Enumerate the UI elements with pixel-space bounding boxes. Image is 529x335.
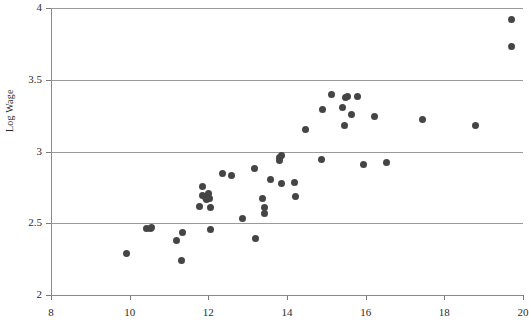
x-tick-label: 18 xyxy=(439,307,450,318)
data-point xyxy=(173,237,180,244)
data-point xyxy=(219,170,226,177)
data-point xyxy=(228,172,235,179)
data-point xyxy=(339,104,346,111)
data-point xyxy=(291,179,298,186)
data-point xyxy=(354,93,361,100)
x-tick-label: 20 xyxy=(518,307,529,318)
data-point xyxy=(360,161,367,168)
data-point xyxy=(344,93,351,100)
data-point xyxy=(472,122,479,129)
data-point xyxy=(259,195,266,202)
data-point xyxy=(207,204,214,211)
data-point xyxy=(292,193,299,200)
data-point xyxy=(419,116,426,123)
data-point xyxy=(341,122,348,129)
x-tick-label: 16 xyxy=(360,307,371,318)
x-tick-label: 14 xyxy=(282,307,293,318)
data-point xyxy=(206,195,213,202)
x-tick-label: 12 xyxy=(203,307,214,318)
data-point xyxy=(319,106,326,113)
data-point xyxy=(371,113,378,120)
data-point xyxy=(207,226,214,233)
data-point xyxy=(267,176,274,183)
data-point xyxy=(239,215,246,222)
data-point xyxy=(508,16,515,23)
data-point xyxy=(199,183,206,190)
data-points-layer xyxy=(51,8,523,295)
x-tick-label: 8 xyxy=(48,307,54,318)
gridline-y xyxy=(51,295,523,296)
data-point xyxy=(196,203,203,210)
data-point xyxy=(302,126,309,133)
x-tick-label: 10 xyxy=(124,307,135,318)
data-point xyxy=(383,159,390,166)
data-point xyxy=(252,235,259,242)
data-point xyxy=(328,91,335,98)
data-point xyxy=(318,156,325,163)
data-point xyxy=(178,257,185,264)
data-point xyxy=(276,157,283,164)
data-point xyxy=(179,229,186,236)
data-point xyxy=(261,210,268,217)
data-point xyxy=(348,111,355,118)
data-point xyxy=(251,165,258,172)
data-point xyxy=(278,180,285,187)
plot-area xyxy=(51,8,523,295)
data-point xyxy=(123,250,130,257)
data-point xyxy=(148,224,155,231)
data-point xyxy=(508,43,515,50)
